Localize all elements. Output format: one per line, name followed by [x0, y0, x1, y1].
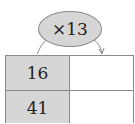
ratio-table: 16 41 — [5, 55, 134, 123]
multiplier-oval: ×13 — [38, 11, 102, 47]
table-row: 16 — [6, 56, 134, 91]
arrow-from-left-column — [37, 40, 46, 54]
table-row: 41 — [6, 91, 134, 124]
multiplier-label: ×13 — [52, 19, 88, 39]
known-value-cell: 41 — [6, 91, 70, 124]
known-value-cell: 16 — [6, 56, 70, 91]
answer-cell[interactable] — [70, 56, 134, 91]
answer-cell[interactable] — [70, 91, 134, 124]
